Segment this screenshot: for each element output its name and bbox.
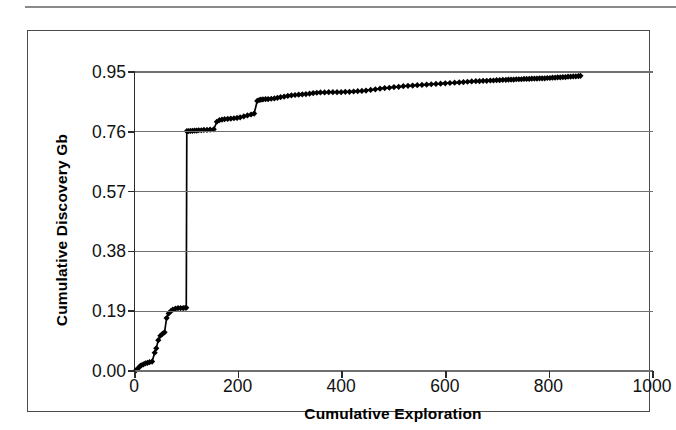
x-axis-tick-label: 1000 <box>633 376 672 397</box>
series-data-point-marker <box>363 87 369 93</box>
chart-figure-box: 0.000.190.380.570.760.95 020040060080010… <box>27 30 650 412</box>
y-axis-tick-label: 0.00 <box>92 361 126 382</box>
y-axis-tick-mark <box>128 310 135 312</box>
data-series-line <box>135 72 653 371</box>
series-data-point-marker <box>372 86 378 92</box>
x-axis-tick-label: 800 <box>534 376 563 397</box>
y-axis-tick-labels: 0.000.190.380.570.760.95 <box>28 72 126 371</box>
x-axis-tick-label: 400 <box>327 376 356 397</box>
x-axis-tick-label: 200 <box>223 376 252 397</box>
series-data-point-marker <box>368 87 374 93</box>
gridline-horizontal <box>135 311 653 312</box>
gridline-horizontal <box>135 131 653 132</box>
y-axis-tick-label: 0.57 <box>92 181 126 202</box>
y-axis-tick-label: 0.95 <box>92 62 126 83</box>
gridline-horizontal <box>135 191 653 192</box>
gridline-horizontal <box>135 251 653 252</box>
plot-area <box>134 72 652 371</box>
x-axis-title: Cumulative Exploration <box>134 405 652 423</box>
gridline-horizontal <box>135 370 653 371</box>
page-top-rule <box>25 6 676 8</box>
x-axis-tick-label: 0 <box>129 376 139 397</box>
series-data-point-marker <box>377 86 383 92</box>
y-axis-tick-mark <box>128 71 135 73</box>
y-axis-title: Cumulative Discovery Gb <box>53 100 71 360</box>
x-axis-tick-labels: 02004006008001000 <box>134 376 652 404</box>
y-axis-tick-label: 0.19 <box>92 301 126 322</box>
x-axis-tick-label: 600 <box>430 376 459 397</box>
series-data-point-marker <box>396 84 402 90</box>
figure-page: 0.000.190.380.570.760.95 020040060080010… <box>0 0 676 430</box>
y-axis-tick-mark <box>128 131 135 133</box>
gridline-horizontal <box>135 71 653 72</box>
y-axis-tick-label: 0.38 <box>92 241 126 262</box>
y-axis-tick-mark <box>128 251 135 253</box>
y-axis-tick-label: 0.76 <box>92 121 126 142</box>
y-axis-tick-mark <box>128 191 135 193</box>
series-line-path <box>136 76 580 371</box>
series-data-point-marker <box>386 85 392 91</box>
